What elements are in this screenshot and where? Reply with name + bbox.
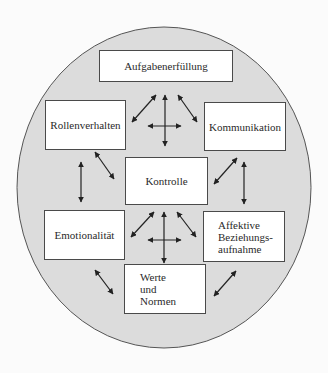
- node-label: Aufgabenerfüllung: [124, 60, 208, 72]
- node-kontrolle: Kontrolle: [125, 157, 208, 205]
- node-kommunikation: Kommunikation: [204, 102, 286, 151]
- node-werte-und-normen: Werte und Normen: [124, 264, 206, 314]
- node-label: Kommunikation: [209, 121, 281, 133]
- node-affektive-beziehungsaufnahme: Affektive Beziehungs- aufnahme: [203, 211, 285, 262]
- node-label: Emotionalität: [55, 229, 115, 241]
- node-aufgabenerfuellung: Aufgabenerfüllung: [99, 50, 233, 82]
- family-dimensions-diagram: Aufgabenerfüllung Rollenverhalten Kommun…: [0, 0, 328, 373]
- node-label: Werte und Normen: [140, 271, 176, 307]
- node-emotionalitaet: Emotionalität: [44, 210, 125, 260]
- node-label: Rollenverhalten: [50, 119, 120, 131]
- node-label: Kontrolle: [145, 175, 187, 187]
- node-label: Affektive Beziehungs- aufnahme: [218, 219, 273, 255]
- node-rollenverhalten: Rollenverhalten: [45, 100, 126, 150]
